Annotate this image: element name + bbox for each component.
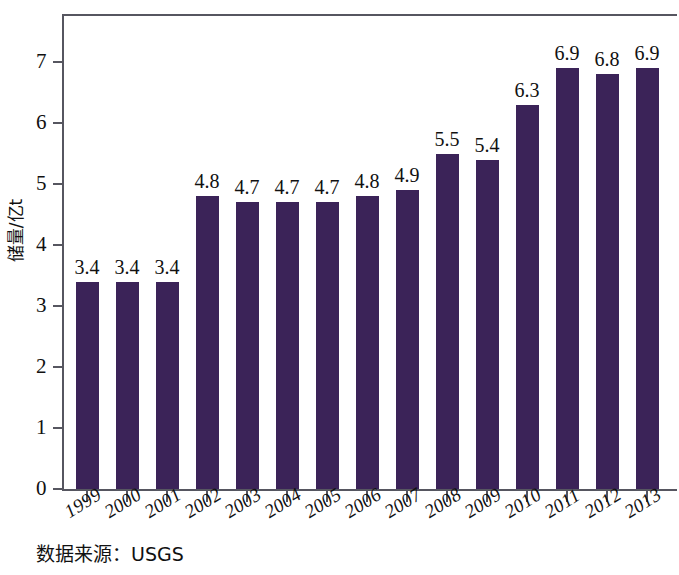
bar-value-label: 3.4 [144,257,190,277]
bar [156,282,179,489]
source-caption: 数据来源：USGS [36,543,184,566]
bar-value-label: 5.4 [464,135,510,155]
bar [116,282,139,489]
bar-value-label: 4.9 [384,165,430,185]
bar [76,282,99,489]
bar [636,68,659,489]
bar [396,190,419,489]
bar [196,196,219,489]
bar-chart-figure: 储量/亿t 01234567 3.43.43.44.84.74.74.74.84… [0,0,679,575]
bar [356,196,379,489]
bar [236,202,259,489]
bar-value-label: 6.3 [504,80,550,100]
bars-layer: 3.43.43.44.84.74.74.74.84.95.55.46.36.96… [0,0,679,575]
bar [476,160,499,489]
bar [556,68,579,489]
bar [436,154,459,490]
bar [276,202,299,489]
bar [316,202,339,489]
bar [596,74,619,489]
bar [516,105,539,489]
bar-value-label: 6.9 [624,43,670,63]
